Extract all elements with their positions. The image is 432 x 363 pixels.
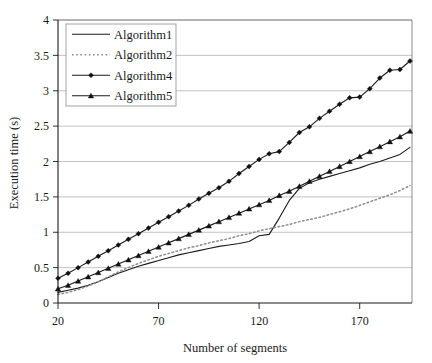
chart-background: [0, 0, 432, 363]
y-tick-label: 1: [43, 225, 49, 239]
x-tick-label: 20: [52, 314, 64, 328]
x-tick-label: 170: [351, 314, 369, 328]
legend-label-algorithm5: Algorithm5: [114, 89, 172, 103]
legend-label-algorithm2: Algorithm2: [114, 48, 172, 62]
y-axis-title: Execution time (s): [7, 117, 21, 209]
y-tick-label: 3: [43, 84, 49, 98]
legend-label-algorithm1: Algorithm1: [114, 28, 172, 42]
execution-time-line-chart: 00.511.522.533.54 2070120170 Algorithm1A…: [0, 0, 432, 363]
y-tick-label: 1.5: [34, 190, 49, 204]
x-tick-label: 120: [250, 314, 268, 328]
x-tick-label: 70: [153, 314, 165, 328]
y-tick-label: 2: [43, 155, 49, 169]
y-tick-label: 0.5: [34, 261, 49, 275]
legend-label-algorithm4: Algorithm4: [114, 69, 173, 83]
y-tick-label: 2.5: [34, 119, 49, 133]
chart-figure: 00.511.522.533.54 2070120170 Algorithm1A…: [0, 0, 432, 363]
x-axis-title: Number of segments: [183, 341, 287, 355]
y-tick-label: 0: [43, 296, 49, 310]
y-tick-label: 4: [43, 13, 49, 27]
y-tick-label: 3.5: [34, 49, 49, 63]
chart-legend: Algorithm1Algorithm2Algorithm4Algorithm5: [66, 24, 176, 106]
